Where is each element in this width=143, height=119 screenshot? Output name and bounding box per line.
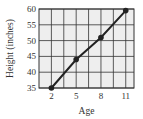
x-tick-label: 11 xyxy=(121,91,130,101)
y-tick-label: 60 xyxy=(27,4,37,14)
data-point xyxy=(49,85,55,91)
y-tick-label: 40 xyxy=(27,67,37,77)
y-axis-label: Height (inches) xyxy=(5,19,16,78)
data-point xyxy=(123,8,129,14)
x-axis-label: Age xyxy=(79,106,95,116)
plot-background xyxy=(39,9,134,88)
x-tick-label: 8 xyxy=(99,91,104,101)
data-point xyxy=(73,57,79,63)
y-tick-label: 45 xyxy=(27,51,37,61)
x-tick-label: 2 xyxy=(49,91,54,101)
y-tick-label: 50 xyxy=(27,36,37,46)
y-tick-label: 55 xyxy=(27,20,37,30)
line-chart: 25811354045505560 Age Height (inches) xyxy=(0,0,143,119)
y-tick-label: 35 xyxy=(27,83,37,93)
x-tick-label: 5 xyxy=(74,91,79,101)
data-point xyxy=(98,35,104,41)
